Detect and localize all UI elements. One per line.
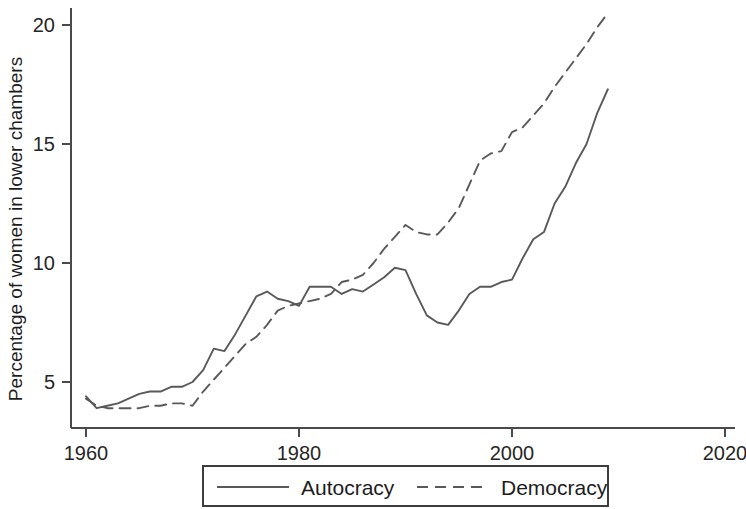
line-chart: 51015201960198020002020 Percentage of wo… (0, 0, 746, 509)
x-tick-label-2020: 2020 (703, 442, 746, 464)
plot-background (0, 0, 746, 509)
chart-legend: AutocracyDemocracy (203, 466, 608, 506)
x-tick-label-1960: 1960 (64, 442, 109, 464)
chart-figure: 51015201960198020002020 Percentage of wo… (0, 0, 746, 509)
legend-label-autocracy: Autocracy (301, 476, 395, 499)
y-axis-title-label: Percentage of women in lower chambers (5, 57, 26, 401)
y-tick-label-20: 20 (33, 14, 55, 36)
y-tick-label-5: 5 (44, 371, 55, 393)
y-tick-label-15: 15 (33, 133, 55, 155)
y-tick-label-10: 10 (33, 252, 55, 274)
legend-label-democracy: Democracy (501, 476, 608, 499)
y-axis-title: Percentage of women in lower chambers (5, 57, 26, 401)
x-tick-label-1980: 1980 (277, 442, 322, 464)
x-tick-label-2000: 2000 (490, 442, 535, 464)
